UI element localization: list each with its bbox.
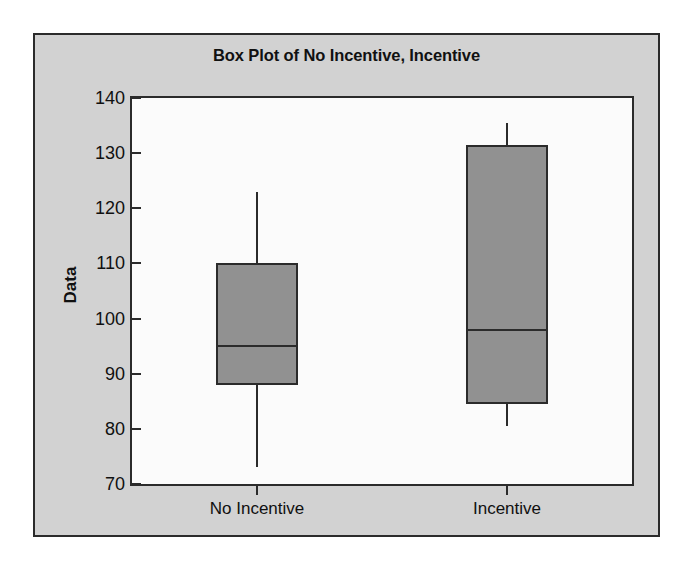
y-tick-label: 80 <box>105 420 132 438</box>
upper-whisker <box>506 123 508 145</box>
median-line <box>216 345 298 347</box>
lower-whisker <box>256 385 258 468</box>
y-tick-label: 140 <box>95 89 132 107</box>
y-tick-label: 110 <box>96 254 132 272</box>
y-tick-label: 130 <box>95 144 132 162</box>
lower-whisker <box>506 404 508 426</box>
x-tick-label: No Incentive <box>210 499 305 519</box>
y-tick-mark <box>132 152 141 154</box>
y-tick-mark <box>132 318 141 320</box>
y-tick-label: 90 <box>105 365 132 383</box>
y-tick-mark <box>132 428 141 430</box>
chart-title: Box Plot of No Incentive, Incentive <box>35 46 658 65</box>
x-tick-mark <box>256 486 258 495</box>
y-tick-label: 120 <box>95 199 132 217</box>
y-tick-label: 100 <box>95 310 132 328</box>
box-no-incentive <box>216 98 298 484</box>
box-plot-figure: Box Plot of No Incentive, Incentive Data… <box>33 33 660 537</box>
x-tick-mark <box>506 486 508 495</box>
y-tick-mark <box>132 207 141 209</box>
iqr-box <box>216 263 298 384</box>
plot-area: 708090100110120130140 No IncentiveIncent… <box>130 96 634 486</box>
iqr-box <box>466 145 548 404</box>
y-tick-mark <box>132 373 141 375</box>
x-tick-label: Incentive <box>473 499 541 519</box>
y-tick-label: 70 <box>105 475 132 493</box>
upper-whisker <box>256 192 258 264</box>
y-tick-mark <box>132 262 141 264</box>
box-incentive <box>466 98 548 484</box>
y-axis-title: Data <box>61 267 81 304</box>
median-line <box>466 329 548 331</box>
y-tick-mark <box>132 483 141 485</box>
y-tick-mark <box>132 97 141 99</box>
